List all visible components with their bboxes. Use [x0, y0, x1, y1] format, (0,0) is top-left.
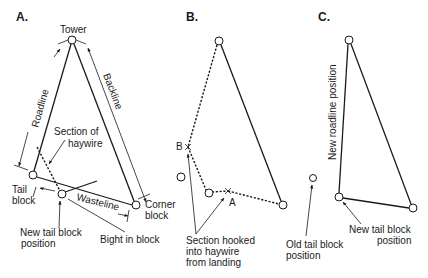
- new-roadline-label: New roadline position: [327, 64, 338, 160]
- backline-dimension-arrow: [88, 48, 146, 202]
- b-dashed-to-a: [212, 191, 228, 192]
- yarding-diagram: A. Tower Roadline Backline Section of ha…: [0, 0, 428, 278]
- c-corner-block-icon: [409, 204, 417, 212]
- tower-label: Tower: [60, 24, 87, 35]
- haywire-pointer: [49, 140, 65, 164]
- point-b-label: B: [176, 141, 183, 152]
- section-label-1: Section hooked: [186, 235, 255, 246]
- panel-a-label: A.: [16, 10, 28, 24]
- panel-b-label: B.: [186, 10, 198, 24]
- section-label-3: from landing: [186, 257, 241, 268]
- section-label-2: into haywire: [186, 246, 240, 257]
- haywire-label: haywire: [68, 138, 103, 149]
- b-backline: [221, 45, 281, 201]
- c-new-tail-label-2: position: [377, 235, 411, 246]
- c-new-tail-pointer: [343, 202, 361, 224]
- tower-tick-right: [76, 40, 86, 44]
- corner-block-icon: [132, 201, 140, 209]
- point-a-label: A: [229, 197, 236, 208]
- section-of-label: Section of: [54, 126, 99, 137]
- c-backline: [351, 44, 411, 204]
- tower-tick-left: [58, 40, 68, 44]
- c-wasteline: [343, 198, 409, 208]
- c-old-tail-block-icon: [310, 175, 317, 182]
- haywire-section: [37, 147, 60, 191]
- section-pointer-a: [196, 198, 224, 234]
- panel-c-label: C.: [318, 10, 330, 24]
- section-pointer-b: [188, 154, 196, 234]
- new-tail-block-icon: [58, 190, 66, 198]
- tail-move-arrow: [40, 188, 55, 191]
- panel-c: C. New roadline position Old tail block …: [286, 10, 417, 261]
- old-tail-label-2: position: [286, 250, 320, 261]
- c-tower-block-icon: [345, 36, 353, 44]
- wasteline-arrow: [118, 214, 128, 216]
- b-old-tail-block-icon: [177, 173, 185, 181]
- old-tail-pointer: [306, 185, 312, 236]
- new-tail-label-1: New tail block: [20, 227, 83, 238]
- c-new-roadline: [339, 44, 348, 193]
- panel-b: B. B A Section hooked into haywire from …: [176, 10, 287, 268]
- c-new-tail-block-icon: [335, 193, 343, 201]
- roadline-arrow-bottom: [19, 132, 28, 166]
- roadline-tick-bottom: [14, 165, 28, 170]
- b-dashed-roadline: [188, 45, 217, 147]
- panel-a: A. Tower Roadline Backline Section of ha…: [12, 10, 176, 249]
- corner-block-label: block: [145, 210, 169, 221]
- b-corner-block-icon: [279, 201, 287, 209]
- old-tail-label-1: Old tail block: [286, 239, 344, 250]
- bight-label: Bight in block: [100, 234, 160, 245]
- roadline-arrow-top: [54, 49, 60, 57]
- b-tail-block-icon: [205, 189, 213, 197]
- new-tail-label-2: position: [21, 238, 55, 249]
- corner-label: Corner: [145, 199, 176, 210]
- c-new-tail-label-1: New tail block: [349, 224, 412, 235]
- tail-block-icon: [29, 171, 37, 179]
- b-tower-block-icon: [215, 37, 223, 45]
- backline: [74, 44, 134, 201]
- tail-label: Tail: [12, 184, 27, 195]
- new-tail-pointer: [59, 201, 60, 228]
- tower-block-icon: [68, 36, 76, 44]
